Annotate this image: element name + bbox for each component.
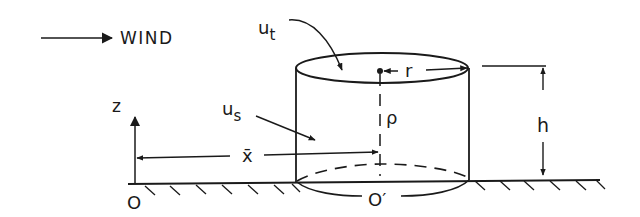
x-bar-label: x̄ — [242, 145, 253, 166]
wind-indicator: WIND — [41, 28, 174, 48]
cylinder-base-front — [297, 182, 362, 196]
z-label: z — [112, 96, 121, 116]
r-label: r — [405, 60, 413, 81]
u-s-label-group: us — [222, 98, 315, 140]
wind-label: WIND — [120, 28, 174, 48]
r-arrow-right-icon — [426, 68, 467, 70]
u-t-main: u — [258, 17, 269, 38]
h-label: h — [537, 114, 549, 136]
x-bar-dimension: x̄ — [137, 145, 378, 166]
u-t-label-group: ut — [258, 17, 342, 70]
cylinder-base-back — [297, 164, 469, 181]
cylinder — [296, 53, 469, 196]
z-axis: z — [112, 96, 135, 184]
u-t-pointer-arrow-icon — [289, 20, 342, 70]
cylinder-top — [296, 53, 468, 83]
u-s-subscript: s — [233, 107, 241, 125]
origin-label: O — [127, 192, 141, 213]
rho-label: ρ — [386, 107, 397, 128]
ground-plane — [128, 180, 605, 195]
x-bar-arrow-left-icon — [137, 156, 230, 158]
origin-prime-label: O′ — [368, 189, 386, 210]
height-dimension: h — [482, 66, 549, 175]
u-t-subscript: t — [269, 26, 275, 44]
u-t-label: ut — [258, 17, 275, 44]
u-s-pointer-arrow-icon — [256, 116, 315, 140]
cylinder-wind-diagram: WIND ut r ρ h us — [0, 0, 640, 217]
rho-dimension: ρ — [380, 74, 397, 176]
ground-line — [128, 180, 600, 184]
u-s-label: us — [222, 98, 241, 125]
x-bar-arrow-right-icon — [264, 152, 378, 155]
radius-dimension: r — [377, 60, 467, 81]
center-point — [377, 68, 383, 74]
u-s-main: u — [222, 98, 233, 119]
